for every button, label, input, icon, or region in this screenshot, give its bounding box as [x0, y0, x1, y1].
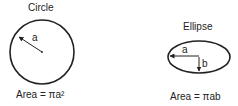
circle-shape: [10, 20, 74, 84]
ellipse-area-formula: Area = πab: [170, 92, 221, 102]
ellipse-title: Ellipse: [183, 22, 212, 32]
ellipse-semi-minor-label: b: [202, 59, 208, 69]
area-formulas-diagram: Circle a Area = πa² Ellipse a b Area = π…: [0, 0, 238, 106]
circle-title: Circle: [28, 3, 54, 13]
circle-radius-label: a: [32, 33, 38, 43]
ellipse-shape: [168, 41, 230, 73]
circle-radius-arrow: [19, 37, 42, 52]
ellipse-semi-major-label: a: [182, 45, 188, 55]
circle-area-formula: Area = πa²: [16, 90, 64, 100]
